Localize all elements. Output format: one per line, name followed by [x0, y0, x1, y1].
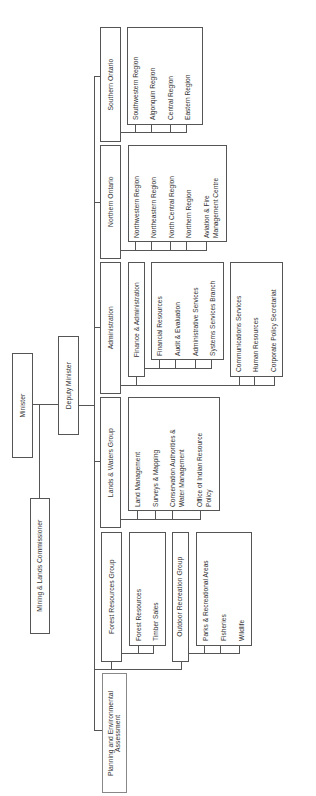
unit-label: Land Management [134, 452, 141, 507]
unit-label: Human Resources [252, 317, 259, 372]
southern-ontario-box: Southern Ontario [100, 27, 121, 142]
lands-waters-label: Lands & Waters Group [107, 428, 114, 497]
unit-label: Northern Region [185, 190, 192, 238]
planning-line2: Assessment [115, 714, 122, 751]
unit-label: Central Region [167, 76, 174, 120]
connector [254, 377, 255, 385]
administration-box: Administration [100, 262, 121, 394]
finance-administration-label: Finance & Administration [133, 282, 140, 357]
unit-label: Aviation & Fire [203, 195, 210, 238]
connector [274, 377, 275, 385]
connector [204, 645, 205, 653]
connector [186, 242, 187, 250]
mining-lands-commissioner-box: Mining & Lands Commissioner [30, 498, 50, 634]
connector [151, 242, 152, 250]
unit-label: Office of Indian Resource [196, 433, 203, 507]
northern-ontario-box: Northern Ontario [100, 145, 121, 259]
connector [159, 360, 160, 368]
connector [136, 377, 137, 385]
deputy-minister-label: Deputy Minister [65, 362, 72, 409]
planning-environmental-assessment-box: Planning and Environmental Assessment [102, 673, 127, 793]
connector [135, 124, 136, 132]
connector [239, 645, 240, 653]
connector [121, 132, 187, 133]
connector [121, 385, 275, 386]
unit-label: Policy [205, 489, 212, 507]
unit-label: Southwestern Region [132, 57, 139, 120]
connector [170, 242, 171, 250]
connector [175, 360, 176, 368]
unit-label: Financial Resources [156, 296, 163, 356]
connector [195, 360, 196, 368]
connector [239, 377, 240, 385]
unit-label: Administrative Services [192, 287, 199, 356]
connector [151, 124, 152, 132]
unit-label: Audit & Evaluation [174, 302, 181, 356]
southern-ontario-label: Southern Ontario [107, 59, 114, 111]
connector [181, 661, 182, 669]
forest-resources-group-box: Forest Resources Group [101, 532, 122, 662]
connector [121, 250, 207, 251]
unit-label: Eastern Region [184, 75, 191, 120]
connector [79, 405, 94, 406]
lands-waters-box: Lands & Waters Group [100, 397, 121, 528]
connector [186, 124, 187, 132]
connector [138, 645, 139, 653]
unit-label: Northeastern Region [150, 177, 157, 238]
planning-environmental-assessment-label: Planning and Environmental Assessment [107, 690, 122, 775]
connector [137, 511, 138, 519]
northern-ontario-label: Northern Ontario [107, 177, 114, 228]
connector [39, 404, 40, 498]
connector [94, 669, 182, 670]
connector [170, 124, 171, 132]
outdoor-recreation-group-label: Outdoor Recreation Group [177, 557, 184, 637]
unit-label: Conservation Authorities & [169, 429, 176, 507]
administration-label: Administration [107, 306, 114, 349]
connector [122, 653, 154, 654]
unit-label: Communications Services [235, 296, 242, 372]
connector [121, 519, 201, 520]
unit-label: Surveys & Mapping [152, 450, 159, 507]
connector [206, 242, 207, 250]
outdoor-recreation-group-box: Outdoor Recreation Group [172, 532, 189, 662]
connector [145, 368, 212, 369]
unit-label: Fisheries [220, 614, 227, 641]
connector [155, 511, 156, 519]
connector [189, 653, 240, 654]
unit-label: Northwestern Region [133, 176, 140, 238]
unit-label: Timber Sales [152, 602, 159, 641]
connector [33, 404, 59, 405]
unit-label: Systems Services Branch [209, 281, 216, 356]
unit-label: Management Centre [212, 178, 219, 238]
unit-label: Wildlife [238, 620, 245, 641]
unit-label: Forest Resources [135, 589, 142, 641]
unit-label: Parks & Recreational Areas [202, 560, 209, 641]
deputy-minister-box: Deputy Minister [58, 336, 79, 435]
connector [135, 242, 136, 250]
mining-lands-commissioner-label: Mining & Lands Commissioner [36, 520, 43, 612]
connector [153, 645, 154, 653]
unit-label: North Central Region [168, 176, 175, 238]
unit-label: Corporate Policy Secretariat [270, 290, 277, 372]
connector [211, 360, 212, 368]
minister-label: Minister [19, 394, 26, 418]
planning-line1: Planning and Environmental [107, 690, 114, 775]
forest-resources-group-label: Forest Resources Group [108, 560, 115, 634]
minister-box: Minister [12, 353, 33, 458]
finance-administration-box: Finance & Administration [128, 262, 145, 377]
connector [200, 511, 201, 519]
unit-label: Water Management [178, 449, 185, 507]
connector [220, 645, 221, 653]
spine [94, 76, 95, 730]
connector [94, 730, 102, 731]
unit-label: Algonquin Region [149, 68, 156, 120]
connector [172, 511, 173, 519]
connector [111, 661, 112, 669]
